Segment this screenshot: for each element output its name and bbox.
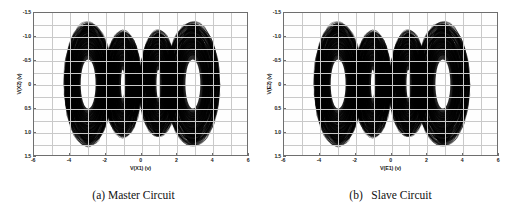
gridline-horizontal-minor — [34, 121, 247, 122]
gridline-vertical-minor — [159, 13, 160, 155]
gridline-horizontal — [284, 85, 497, 86]
y-tick-mark — [283, 156, 286, 157]
gridline-vertical-minor — [302, 13, 303, 155]
gridline-horizontal-minor — [34, 97, 247, 98]
gridline-vertical-minor — [481, 13, 482, 155]
gridline-horizontal-minor — [34, 25, 247, 26]
x-tick-label: 6 — [497, 157, 500, 163]
x-tick-label: 0 — [389, 157, 392, 163]
y-tick-label: 0.5 — [18, 105, 31, 111]
gridline-vertical-minor — [374, 13, 375, 155]
x-tick-mark — [105, 153, 106, 156]
x-tick-mark — [426, 153, 427, 156]
plot-area-slave — [283, 12, 498, 156]
x-tick-label: 0 — [139, 157, 142, 163]
y-tick-mark — [33, 36, 36, 37]
gridline-horizontal-minor — [284, 73, 497, 74]
x-tick-label: 4 — [211, 157, 214, 163]
x-tick-mark — [498, 153, 499, 156]
x-tick-label: -4 — [317, 157, 321, 163]
caption-slave: (b) Slave Circuit — [263, 189, 511, 201]
x-tick-label: 2 — [425, 157, 428, 163]
gridline-vertical-minor — [231, 13, 232, 155]
x-tick-mark — [355, 153, 356, 156]
x-axis-title-slave: V(E1) (v) — [380, 165, 401, 171]
gridline-horizontal — [284, 37, 497, 38]
y-tick-label: -0.5 — [18, 57, 31, 63]
y-tick-mark — [33, 12, 36, 13]
y-tick-mark — [33, 156, 36, 157]
y-tick-label: -1.0 — [268, 33, 281, 39]
x-tick-mark — [141, 153, 142, 156]
gridline-horizontal-minor — [34, 49, 247, 50]
y-tick-label: 1.5 — [18, 153, 31, 159]
x-tick-mark — [176, 153, 177, 156]
y-tick-mark — [283, 132, 286, 133]
panel-master-circuit: -6-4-202461.51.00.50-0.5-1.0-1.5 V(X1) (… — [0, 0, 255, 209]
y-tick-mark — [33, 132, 36, 133]
x-tick-mark — [212, 153, 213, 156]
x-tick-label: -2 — [103, 157, 107, 163]
gridline-horizontal-minor — [284, 49, 497, 50]
gridline-horizontal — [284, 61, 497, 62]
gridline-vertical-minor — [409, 13, 410, 155]
y-axis-title-slave: V(E2) (v) — [266, 68, 272, 100]
caption-master: (a) Master Circuit — [6, 189, 261, 201]
x-tick-label: -4 — [67, 157, 71, 163]
x-tick-mark — [462, 153, 463, 156]
gridline-horizontal — [284, 109, 497, 110]
y-tick-mark — [33, 60, 36, 61]
x-tick-mark — [69, 153, 70, 156]
y-axis-title-master: V(X2) (v) — [16, 68, 22, 100]
gridline-horizontal — [34, 61, 247, 62]
x-tick-label: 4 — [461, 157, 464, 163]
x-tick-label: 6 — [247, 157, 250, 163]
y-tick-mark — [33, 108, 36, 109]
x-tick-mark — [248, 153, 249, 156]
y-tick-label: -0.5 — [268, 57, 281, 63]
y-tick-mark — [283, 36, 286, 37]
gridline-horizontal-minor — [284, 121, 497, 122]
y-tick-mark — [33, 84, 36, 85]
gridline-vertical-minor — [124, 13, 125, 155]
gridline-horizontal — [34, 133, 247, 134]
gridline-vertical-minor — [338, 13, 339, 155]
gridline-vertical-minor — [445, 13, 446, 155]
gridline-horizontal — [34, 37, 247, 38]
gridline-horizontal — [34, 85, 247, 86]
y-tick-label: 1.0 — [18, 129, 31, 135]
y-tick-mark — [283, 12, 286, 13]
gridline-horizontal-minor — [34, 145, 247, 146]
plot-area-master — [33, 12, 248, 156]
x-tick-label: -6 — [281, 157, 285, 163]
x-tick-label: -6 — [31, 157, 35, 163]
x-tick-mark — [391, 153, 392, 156]
y-tick-label: 1.0 — [268, 129, 281, 135]
y-tick-mark — [283, 108, 286, 109]
y-tick-label: 1.5 — [268, 153, 281, 159]
x-tick-mark — [319, 153, 320, 156]
y-tick-mark — [283, 84, 286, 85]
gridline-vertical-minor — [88, 13, 89, 155]
y-tick-label: -1.0 — [18, 33, 31, 39]
gridline-horizontal-minor — [284, 145, 497, 146]
gridline-vertical-minor — [52, 13, 53, 155]
x-tick-label: -2 — [353, 157, 357, 163]
x-tick-label: 2 — [175, 157, 178, 163]
y-tick-label: 0.5 — [268, 105, 281, 111]
figure-two-panel-attractors: -6-4-202461.51.00.50-0.5-1.0-1.5 V(X1) (… — [0, 0, 511, 209]
gridline-horizontal-minor — [284, 97, 497, 98]
gridline-horizontal — [284, 133, 497, 134]
y-tick-label: -1.5 — [268, 9, 281, 15]
x-axis-title-master: V(X1) (v) — [130, 165, 151, 171]
y-tick-label: -1.5 — [18, 9, 31, 15]
y-tick-mark — [283, 60, 286, 61]
gridline-horizontal-minor — [34, 73, 247, 74]
panel-slave-circuit: -6-4-202461.51.00.50-0.5-1.0-1.5 V(E1) (… — [255, 0, 510, 209]
gridline-horizontal-minor — [284, 25, 497, 26]
gridline-horizontal — [34, 109, 247, 110]
gridline-vertical-minor — [195, 13, 196, 155]
